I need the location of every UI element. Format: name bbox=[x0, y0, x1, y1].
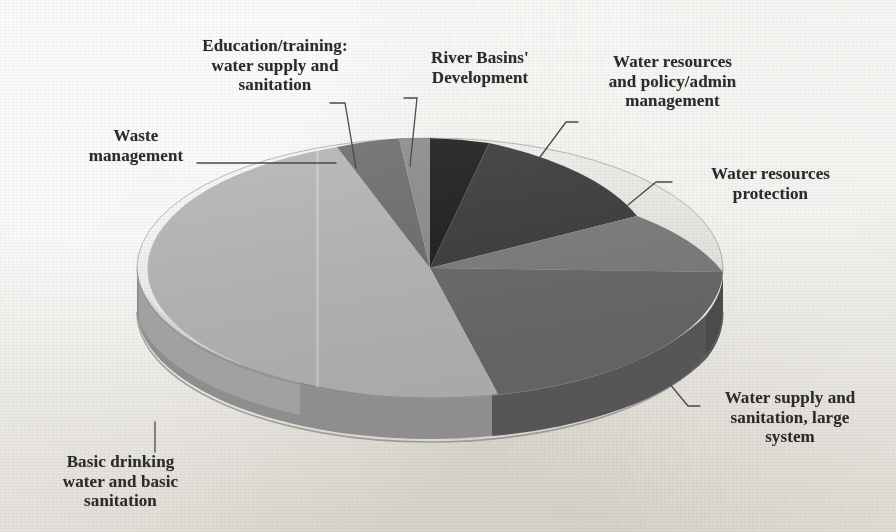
label-water-resources-protection: Water resources protection bbox=[678, 164, 863, 203]
top-face-shading bbox=[137, 138, 723, 398]
leader-water-supply-large bbox=[669, 383, 700, 406]
label-water-supply-sanitation-large-system: Water supply and sanitation, large syste… bbox=[700, 388, 880, 447]
scan-band-artifact bbox=[316, 138, 319, 400]
pie-chart-figure: Education/training: water supply and san… bbox=[0, 0, 896, 532]
label-waste-management: Waste management bbox=[72, 126, 200, 165]
label-education-training: Education/training: water supply and san… bbox=[175, 36, 375, 95]
label-basic-drinking-water-sanitation: Basic drinking water and basic sanitatio… bbox=[28, 452, 213, 511]
label-river-basins-development: River Basins' Development bbox=[405, 48, 555, 87]
label-water-resources-policy-management: Water resources and policy/admin managem… bbox=[580, 52, 765, 111]
